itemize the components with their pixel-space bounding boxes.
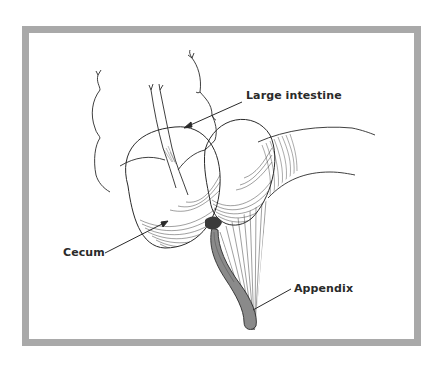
cecum-leader [105, 222, 166, 253]
ileum-shape [258, 127, 375, 198]
leader-lines [105, 102, 291, 310]
arrow-icon [184, 122, 192, 128]
anatomy-illustration [0, 0, 440, 367]
large-intestine-leader [186, 102, 242, 127]
label-large-intestine: Large intestine [246, 89, 342, 102]
large-intestine-shape [92, 50, 216, 195]
appendix-leader [253, 289, 291, 310]
label-cecum: Cecum [63, 246, 105, 259]
label-appendix: Appendix [294, 282, 353, 295]
cecum-shape [126, 127, 221, 248]
